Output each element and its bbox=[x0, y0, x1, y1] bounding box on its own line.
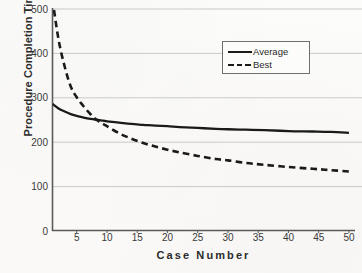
x-axis-tick-label: 15 bbox=[124, 232, 150, 243]
x-axis-tick-label: 30 bbox=[215, 232, 241, 243]
x-axis-tick-label: 35 bbox=[245, 232, 271, 243]
data-series-layer bbox=[53, 0, 349, 171]
x-axis-tick-label: 20 bbox=[154, 232, 180, 243]
legend-line-sample-dashed-icon bbox=[227, 60, 253, 70]
chart-figure: Procedure Completion Time 01002003004005… bbox=[0, 0, 362, 273]
series-line-average bbox=[53, 104, 349, 133]
gridlines bbox=[53, 9, 362, 187]
x-axis-tick-label: 10 bbox=[94, 232, 120, 243]
x-axis-title: Case Number bbox=[52, 249, 355, 261]
x-axis-tick-label: 25 bbox=[185, 232, 211, 243]
x-axis-tick-label: 45 bbox=[306, 232, 332, 243]
legend-entry-average: Average bbox=[227, 45, 309, 58]
legend-label-average: Average bbox=[253, 46, 288, 57]
legend-line-sample-solid-icon bbox=[227, 47, 253, 57]
x-axis-tick-label: 5 bbox=[64, 232, 90, 243]
legend-label-best: Best bbox=[253, 59, 272, 70]
chart-legend: Average Best bbox=[222, 41, 310, 74]
x-axis-tick-label: 40 bbox=[275, 232, 301, 243]
legend-entry-best: Best bbox=[227, 58, 309, 71]
series-line-best bbox=[53, 0, 349, 171]
x-axis-tick-label: 50 bbox=[336, 232, 362, 243]
